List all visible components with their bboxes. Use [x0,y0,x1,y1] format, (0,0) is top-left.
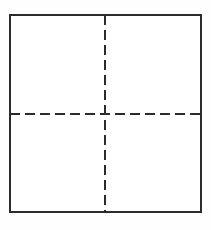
square-quadrant-diagram [0,0,211,230]
bottom-right-quadrant [105,114,201,212]
figure-canvas [0,0,211,230]
bottom-left-quadrant [10,114,105,212]
top-left-quadrant [10,15,105,114]
top-right-quadrant [105,15,201,114]
